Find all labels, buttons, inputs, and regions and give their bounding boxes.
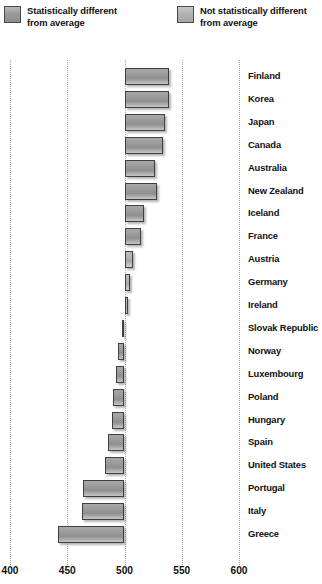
chart-row: Australia bbox=[0, 157, 322, 181]
country-label-germany: Germany bbox=[248, 276, 288, 287]
chart-legend: Statistically different from average Not… bbox=[0, 0, 322, 46]
bar-canada[interactable] bbox=[125, 137, 164, 154]
chart-x-axis: 400450500550600 bbox=[0, 563, 322, 584]
bar-germany[interactable] bbox=[125, 274, 131, 291]
country-label-canada: Canada bbox=[248, 139, 281, 150]
country-label-italy: Italy bbox=[248, 505, 266, 516]
country-label-austria: Austria bbox=[248, 253, 279, 264]
legend-swatch-statistically-different-icon bbox=[4, 6, 21, 23]
x-tick-600: 600 bbox=[231, 565, 248, 576]
bar-poland[interactable] bbox=[113, 389, 124, 406]
country-label-slovak-republic: Slovak Republic bbox=[248, 322, 318, 333]
country-label-spain: Spain bbox=[248, 436, 273, 447]
x-tick-550: 550 bbox=[173, 565, 190, 576]
chart-row: Luxembourg bbox=[0, 363, 322, 387]
bar-iceland[interactable] bbox=[125, 205, 144, 222]
bar-ireland[interactable] bbox=[125, 297, 128, 314]
country-label-ireland: Ireland bbox=[248, 299, 278, 310]
chart-row: Poland bbox=[0, 386, 322, 410]
chart-row: Italy bbox=[0, 500, 322, 524]
bar-united-states[interactable] bbox=[105, 457, 124, 474]
country-label-greece: Greece bbox=[248, 528, 279, 539]
bar-finland[interactable] bbox=[125, 68, 170, 85]
bar-france[interactable] bbox=[125, 228, 141, 245]
bar-spain[interactable] bbox=[108, 434, 124, 451]
chart-row: Slovak Republic bbox=[0, 317, 322, 341]
country-label-france: France bbox=[248, 230, 278, 241]
legend-label-statistically-different: Statistically different from average bbox=[27, 5, 117, 28]
country-label-hungary: Hungary bbox=[248, 414, 285, 425]
bar-hungary[interactable] bbox=[112, 412, 125, 429]
chart-row: France bbox=[0, 225, 322, 249]
country-label-iceland: Iceland bbox=[248, 207, 279, 218]
chart-plot-area: FinlandKoreaJapanCanadaAustraliaNew Zeal… bbox=[0, 46, 322, 584]
chart-row: Portugal bbox=[0, 477, 322, 501]
legend-label-not-statistically-different: Not statistically different from average bbox=[200, 5, 307, 28]
country-label-new-zealand: New Zealand bbox=[248, 185, 304, 196]
country-label-united-states: United States bbox=[248, 459, 306, 470]
country-label-korea: Korea bbox=[248, 93, 274, 104]
bar-korea[interactable] bbox=[125, 91, 170, 108]
chart-row: New Zealand bbox=[0, 180, 322, 204]
bar-new-zealand[interactable] bbox=[125, 183, 157, 200]
chart-row: Germany bbox=[0, 271, 322, 295]
chart-row: Finland bbox=[0, 65, 322, 89]
chart-row: Norway bbox=[0, 340, 322, 364]
chart-row: Hungary bbox=[0, 409, 322, 433]
bar-austria[interactable] bbox=[125, 251, 133, 268]
bar-luxembourg[interactable] bbox=[116, 366, 124, 383]
bar-portugal[interactable] bbox=[83, 480, 124, 497]
bar-slovak-republic[interactable] bbox=[122, 320, 124, 337]
chart-row: Canada bbox=[0, 134, 322, 158]
country-label-finland: Finland bbox=[248, 70, 280, 81]
country-label-norway: Norway bbox=[248, 345, 281, 356]
bar-greece[interactable] bbox=[58, 526, 124, 543]
chart-row: United States bbox=[0, 454, 322, 478]
legend-item-statistically-different: Statistically different from average bbox=[4, 5, 117, 28]
chart-row: Spain bbox=[0, 431, 322, 455]
legend-item-not-statistically-different: Not statistically different from average bbox=[177, 5, 307, 28]
bar-australia[interactable] bbox=[125, 160, 156, 177]
bar-italy[interactable] bbox=[82, 503, 124, 520]
chart-row: Korea bbox=[0, 88, 322, 112]
chart-row: Iceland bbox=[0, 202, 322, 226]
chart-row: Austria bbox=[0, 248, 322, 272]
chart-bars: FinlandKoreaJapanCanadaAustraliaNew Zeal… bbox=[0, 65, 322, 545]
chart-row: Greece bbox=[0, 523, 322, 547]
country-label-luxembourg: Luxembourg bbox=[248, 368, 303, 379]
chart-row: Ireland bbox=[0, 294, 322, 318]
country-label-portugal: Portugal bbox=[248, 482, 285, 493]
country-label-japan: Japan bbox=[248, 116, 274, 127]
x-tick-450: 450 bbox=[59, 565, 76, 576]
x-tick-400: 400 bbox=[2, 565, 19, 576]
country-label-poland: Poland bbox=[248, 391, 278, 402]
bar-japan[interactable] bbox=[125, 114, 165, 131]
legend-swatch-not-statistically-different-icon bbox=[177, 6, 194, 23]
x-tick-500: 500 bbox=[116, 565, 133, 576]
chart-row: Japan bbox=[0, 111, 322, 135]
bar-norway[interactable] bbox=[118, 343, 125, 360]
country-label-australia: Australia bbox=[248, 162, 287, 173]
